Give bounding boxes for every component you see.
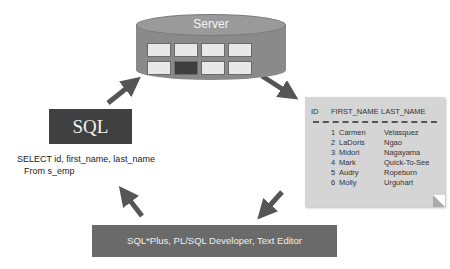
server-slot <box>228 43 252 57</box>
result-row: 4 Mark Quick-To-See <box>305 158 445 168</box>
arrow-sql-to-server <box>108 83 133 103</box>
server-slot <box>228 61 252 75</box>
cell-last-name: Velasquez <box>384 128 419 137</box>
server-slot <box>201 43 225 57</box>
cell-id: 3 <box>331 148 335 157</box>
column-header-id: ID <box>311 107 319 116</box>
server-database: Server <box>136 14 286 86</box>
result-rows: 1 Carmen Velasquez 2 LaDoris Ngao 3 Mido… <box>305 128 445 188</box>
column-header-last-name: LAST_NAME <box>381 107 426 116</box>
result-sheet: ID FIRST_NAME LAST_NAME 1 Carmen Velasqu… <box>305 97 445 207</box>
cell-last-name: Ngao <box>384 138 402 147</box>
result-row: 5 Audry Ropeburn <box>305 168 445 178</box>
cell-last-name: Quick-To-See <box>384 158 429 167</box>
result-row: 6 Molly Urguhart <box>305 178 445 188</box>
cell-id: 5 <box>331 168 335 177</box>
cell-id: 1 <box>331 128 335 137</box>
cell-first-name: Molly <box>339 178 357 187</box>
arrow-result-to-tools <box>264 192 282 212</box>
cell-id: 6 <box>331 178 335 187</box>
result-row: 3 Midori Nagayama <box>305 148 445 158</box>
cell-last-name: Nagayama <box>384 148 420 157</box>
cell-id: 2 <box>331 138 335 147</box>
server-slot-active <box>174 61 198 75</box>
server-slot <box>201 61 225 75</box>
column-header-first-name: FIRST_NAME <box>331 107 379 116</box>
sql-query-line1: SELECT id, first_name, last_name <box>17 153 155 165</box>
server-slot <box>147 43 171 57</box>
arrow-tools-to-sql <box>125 194 142 216</box>
server-slot <box>147 61 171 75</box>
cell-first-name: Audry <box>339 168 359 177</box>
server-slot <box>174 43 198 57</box>
server-slots <box>147 43 252 75</box>
cell-first-name: Carmen <box>339 128 366 137</box>
sql-query: SELECT id, first_name, last_name From s_… <box>17 153 155 177</box>
result-row: 1 Carmen Velasquez <box>305 128 445 138</box>
page-fold-icon <box>433 195 445 207</box>
cell-last-name: Urguhart <box>384 178 413 187</box>
cell-id: 4 <box>331 158 335 167</box>
cell-first-name: Midori <box>339 148 359 157</box>
tools-bar: SQL*Plus, PL/SQL Developer, Text Editor <box>92 225 337 257</box>
cell-last-name: Ropeburn <box>384 168 417 177</box>
sql-query-line2: From s_emp <box>17 165 155 177</box>
sql-box: SQL <box>49 109 132 144</box>
server-label: Server <box>136 17 286 31</box>
result-row: 2 LaDoris Ngao <box>305 138 445 148</box>
cell-first-name: LaDoris <box>339 138 365 147</box>
cell-first-name: Mark <box>339 158 356 167</box>
header-divider <box>313 121 437 123</box>
